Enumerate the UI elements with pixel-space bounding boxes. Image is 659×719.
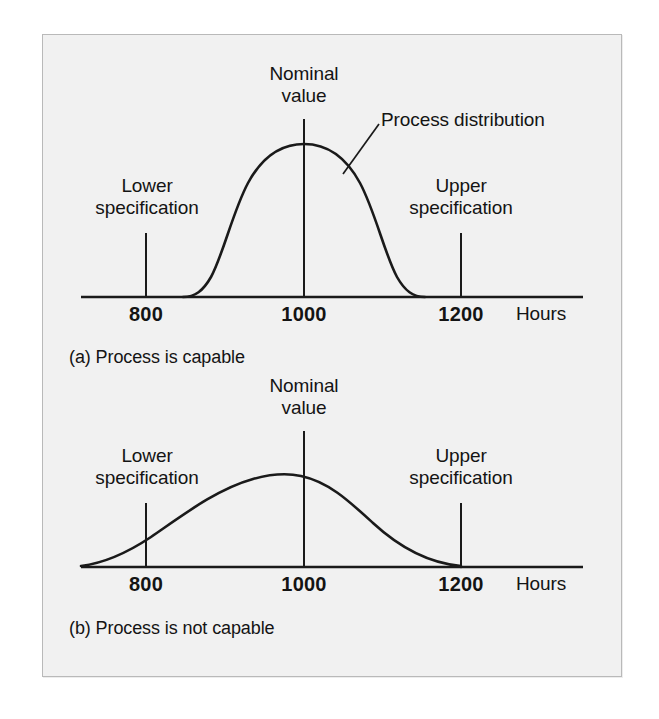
process-distribution-label: Process distribution — [381, 109, 611, 131]
figure-panel: Nominal value Process distribution Lower… — [42, 34, 622, 677]
lower-spec-label-b: Lower specification — [69, 445, 225, 489]
x-tick-800-b: 800 — [106, 573, 186, 595]
chart-process-capable: Nominal value Process distribution Lower… — [43, 35, 621, 365]
figure-root: Nominal value Process distribution Lower… — [0, 0, 659, 719]
x-axis-unit-label-b: Hours — [516, 573, 602, 595]
chart-process-not-capable: Nominal value Lower specification Upper … — [43, 373, 621, 673]
x-tick-800-a: 800 — [106, 303, 186, 325]
chart-a-caption: (a) Process is capable — [69, 347, 245, 368]
x-tick-1000-a: 1000 — [264, 303, 344, 325]
nominal-value-label-b: Nominal value — [234, 375, 374, 419]
chart-b-caption: (b) Process is not capable — [69, 618, 275, 639]
x-tick-1000-b: 1000 — [264, 573, 344, 595]
upper-spec-label-b: Upper specification — [383, 445, 539, 489]
lower-spec-label-a: Lower specification — [69, 175, 225, 219]
upper-spec-label-a: Upper specification — [383, 175, 539, 219]
nominal-value-label-a: Nominal value — [234, 63, 374, 107]
x-tick-1200-a: 1200 — [421, 303, 501, 325]
x-tick-1200-b: 1200 — [421, 573, 501, 595]
x-axis-unit-label-a: Hours — [516, 303, 602, 325]
